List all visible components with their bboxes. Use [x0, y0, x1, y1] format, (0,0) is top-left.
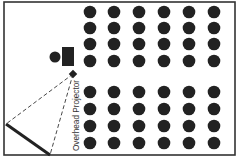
- presenter-icon: [50, 52, 61, 63]
- presenter-desk: [62, 47, 74, 66]
- seat: [133, 137, 146, 150]
- seat: [158, 22, 171, 35]
- seat: [158, 120, 171, 133]
- seat: [208, 86, 221, 99]
- seat: [84, 137, 97, 150]
- seat: [208, 22, 221, 35]
- classroom-diagram: Overhead Projector: [0, 0, 238, 159]
- seat: [108, 120, 121, 133]
- seat: [108, 22, 121, 35]
- seat: [208, 120, 221, 133]
- projection-beam-lower: [50, 74, 73, 155]
- seat: [208, 38, 221, 51]
- seat: [84, 120, 97, 133]
- seat: [208, 137, 221, 150]
- seat: [108, 86, 121, 99]
- projector-label: Overhead Projector: [72, 80, 81, 151]
- seat: [108, 55, 121, 68]
- seat: [158, 103, 171, 116]
- seat: [108, 103, 121, 116]
- seat: [158, 137, 171, 150]
- seat: [84, 86, 97, 99]
- seat: [208, 6, 221, 19]
- seat: [183, 86, 196, 99]
- seat: [158, 55, 171, 68]
- seat: [133, 22, 146, 35]
- seat: [183, 103, 196, 116]
- seat: [183, 38, 196, 51]
- seat: [158, 38, 171, 51]
- seat: [133, 86, 146, 99]
- seat: [208, 55, 221, 68]
- seat: [208, 103, 221, 116]
- seat: [183, 137, 196, 150]
- projection-beam-upper: [6, 74, 73, 124]
- seat-grid: [84, 6, 221, 150]
- seat: [158, 6, 171, 19]
- seat: [133, 103, 146, 116]
- seat: [183, 22, 196, 35]
- seat: [108, 38, 121, 51]
- seat: [108, 6, 121, 19]
- overhead-projector-icon: [69, 70, 77, 78]
- seat: [183, 6, 196, 19]
- seat: [133, 38, 146, 51]
- seat: [133, 6, 146, 19]
- seat: [183, 55, 196, 68]
- seat: [108, 137, 121, 150]
- seat: [158, 86, 171, 99]
- projection-screen: [6, 124, 50, 155]
- seat: [84, 103, 97, 116]
- seat: [84, 22, 97, 35]
- seat: [133, 120, 146, 133]
- seat: [84, 38, 97, 51]
- seat: [84, 6, 97, 19]
- seat: [84, 55, 97, 68]
- seat: [183, 120, 196, 133]
- seat: [133, 55, 146, 68]
